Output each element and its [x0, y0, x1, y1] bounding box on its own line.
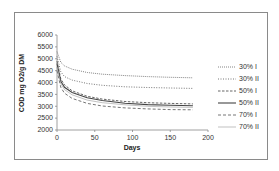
series-line	[57, 52, 193, 78]
series-line	[57, 61, 193, 104]
y-tick-label: 4000	[37, 79, 53, 86]
y-tick-label: 2500	[37, 114, 53, 121]
y-tick-label: 3000	[37, 103, 53, 110]
legend-label: 70% I	[239, 111, 257, 118]
y-tick-label: 4500	[37, 67, 53, 74]
x-tick-label: 0	[55, 134, 59, 141]
plot-area	[57, 52, 193, 110]
x-tick-label: 200	[202, 134, 214, 141]
y-tick-label: 5500	[37, 43, 53, 50]
y-tick-label: 5000	[37, 55, 53, 62]
x-axis-label: Days	[124, 144, 141, 152]
legend-label: 30% I	[239, 63, 257, 70]
series-line	[57, 71, 193, 110]
legend-label: 50% I	[239, 87, 257, 94]
y-tick-label: 3500	[37, 91, 53, 98]
y-tick-label: 6000	[37, 31, 53, 38]
legend: 30% I30% II50% I50% II70% I70% II	[218, 63, 259, 130]
x-tick-label: 50	[91, 134, 99, 141]
legend-label: 70% II	[239, 123, 259, 130]
y-tick-label: 2000	[37, 126, 53, 133]
line-chart: 200025003000350040004500500055006000 050…	[0, 0, 279, 171]
series-line	[57, 56, 193, 88]
y-axis-label: COD mg O2/g DM	[18, 54, 26, 113]
x-tick-label: 150	[164, 134, 176, 141]
x-axis: 050100150200	[55, 130, 214, 141]
y-axis: 200025003000350040004500500055006000	[37, 31, 57, 133]
legend-label: 30% II	[239, 75, 259, 82]
legend-label: 50% II	[239, 99, 259, 106]
x-tick-label: 100	[127, 134, 139, 141]
series-line	[57, 64, 193, 106]
